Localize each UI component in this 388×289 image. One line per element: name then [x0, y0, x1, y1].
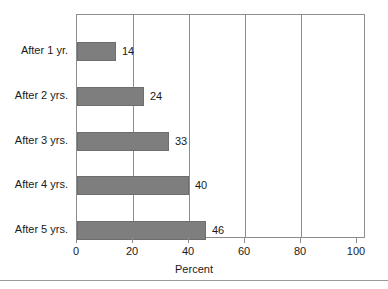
xtick-label-text: 40 — [182, 245, 194, 257]
xtick-0 — [76, 238, 77, 243]
plot-area: 14 24 33 40 46 — [76, 14, 365, 238]
bar-after-3-yrs — [77, 132, 169, 151]
category-label-1: After 2 yrs. — [15, 86, 68, 105]
xtick-label-100: 100 — [336, 245, 376, 257]
bar-row-0: 14 — [77, 29, 364, 74]
bar-after-1-yr — [77, 42, 116, 61]
xtick-label-text: 100 — [347, 245, 365, 257]
category-label-text: After 4 yrs. — [15, 178, 68, 190]
bar-value-text: 24 — [150, 90, 162, 102]
bar-value-0: 14 — [122, 42, 134, 61]
bar-value-text: 40 — [195, 179, 207, 191]
xtick-label-text: 0 — [73, 245, 79, 257]
xtick-80 — [300, 238, 301, 243]
xtick-40 — [188, 238, 189, 243]
bar-row-2: 33 — [77, 119, 364, 164]
xtick-label-80: 80 — [280, 245, 320, 257]
bar-value-2: 33 — [175, 132, 187, 151]
category-label-2: After 3 yrs. — [15, 131, 68, 150]
bar-after-4-yrs — [77, 176, 189, 195]
xtick-60 — [244, 238, 245, 243]
category-label-text: After 3 yrs. — [15, 134, 68, 146]
category-label-3: After 4 yrs. — [15, 175, 68, 194]
xtick-20 — [132, 238, 133, 243]
xtick-label-20: 20 — [112, 245, 152, 257]
bar-value-3: 40 — [195, 176, 207, 195]
bar-value-text: 14 — [122, 45, 134, 57]
category-label-text: After 1 yr. — [21, 44, 68, 56]
bar-after-2-yrs — [77, 87, 144, 106]
xtick-label-40: 40 — [168, 245, 208, 257]
bottom-divider — [0, 280, 388, 281]
bar-after-5-yrs — [77, 221, 206, 240]
bar-value-4: 46 — [212, 221, 224, 240]
xtick-label-text: 60 — [238, 245, 250, 257]
category-label-text: After 5 yrs. — [15, 223, 68, 235]
xtick-label-text: 80 — [294, 245, 306, 257]
bar-value-text: 46 — [212, 224, 224, 236]
xtick-label-text: 20 — [126, 245, 138, 257]
xtick-label-0: 0 — [56, 245, 96, 257]
bar-chart-figure: After 1 yr. After 2 yrs. After 3 yrs. Af… — [0, 0, 388, 289]
category-label-0: After 1 yr. — [21, 41, 68, 60]
category-label-4: After 5 yrs. — [15, 220, 68, 239]
bar-row-3: 40 — [77, 163, 364, 208]
bar-value-1: 24 — [150, 87, 162, 106]
xtick-label-60: 60 — [224, 245, 264, 257]
category-label-text: After 2 yrs. — [15, 89, 68, 101]
x-axis-title: Percent — [0, 263, 388, 275]
bar-row-1: 24 — [77, 74, 364, 119]
xtick-100 — [356, 238, 357, 243]
bar-value-text: 33 — [175, 135, 187, 147]
